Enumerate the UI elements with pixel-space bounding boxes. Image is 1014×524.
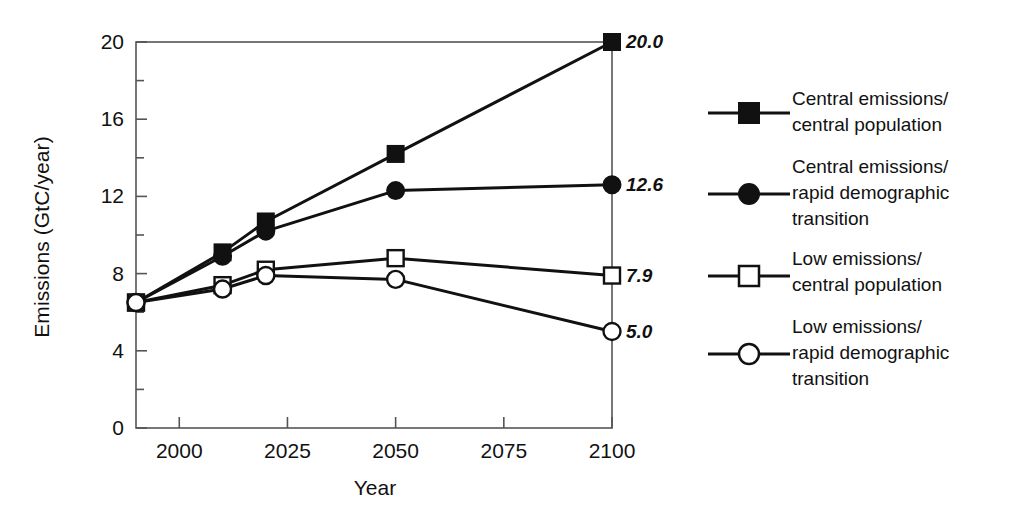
y-axis-tick-label: 20 (78, 31, 124, 52)
data-point-marker (388, 146, 404, 162)
data-point-marker (604, 268, 620, 284)
y-axis-title: Emissions (GtC/year) (30, 87, 54, 387)
x-axis-title: Year (136, 476, 614, 500)
data-point-marker (388, 250, 404, 266)
series-end-value-label: 12.6 (626, 175, 663, 194)
legend-label: Low emissions/ central population (792, 246, 1006, 298)
legend-label: Central emissions/ rapid demographic tra… (792, 154, 1006, 232)
legend-item-low-emissions-rapid-demographic-transition: Low emissions/ rapid demographic transit… (706, 314, 1006, 392)
filled-square-marker-icon (706, 86, 792, 140)
series-line (136, 276, 612, 332)
chart-legend: Central emissions/ central population Ce… (706, 86, 1006, 406)
legend-item-central-emissions-rapid-demographic-transition: Central emissions/ rapid demographic tra… (706, 154, 1006, 232)
chart-page: Emissions (GtC/year) Year 04812162020002… (0, 0, 1014, 524)
data-point-marker (214, 281, 231, 298)
x-axis-tick-label: 2100 (572, 440, 652, 461)
data-point-marker (387, 182, 404, 199)
data-point-marker (128, 294, 145, 311)
data-point-marker (387, 271, 404, 288)
data-point-marker (604, 323, 621, 340)
chart-plot-area: Emissions (GtC/year) Year 04812162020002… (0, 0, 700, 524)
y-axis-tick-label: 8 (78, 263, 124, 284)
x-axis-tick-label: 2000 (139, 440, 219, 461)
data-point-marker (214, 248, 231, 265)
legend-label: Central emissions/ central population (792, 86, 1006, 138)
y-axis-tick-label: 0 (78, 417, 124, 438)
series-line (136, 185, 612, 303)
open-square-marker-icon (706, 246, 792, 300)
x-axis-tick-label: 2050 (356, 440, 436, 461)
legend-label: Low emissions/ rapid demographic transit… (792, 314, 1006, 392)
series-end-value-label: 20.0 (626, 32, 663, 51)
y-axis-tick-label: 12 (78, 185, 124, 206)
data-point-marker (604, 176, 621, 193)
legend-item-central-emissions-central-population: Central emissions/ central population (706, 86, 1006, 140)
data-point-marker (257, 267, 274, 284)
series-end-value-label: 5.0 (626, 322, 652, 341)
data-point-marker (257, 223, 274, 240)
y-axis-tick-label: 4 (78, 340, 124, 361)
plot-frame (136, 42, 612, 428)
series-end-value-label: 7.9 (626, 266, 652, 285)
x-axis-tick-label: 2075 (464, 440, 544, 461)
legend-item-low-emissions-central-population: Low emissions/ central population (706, 246, 1006, 300)
data-point-marker (604, 34, 620, 50)
open-circle-marker-icon (706, 314, 792, 368)
y-axis-tick-label: 16 (78, 108, 124, 129)
x-axis-tick-label: 2025 (247, 440, 327, 461)
filled-circle-marker-icon (706, 154, 792, 208)
